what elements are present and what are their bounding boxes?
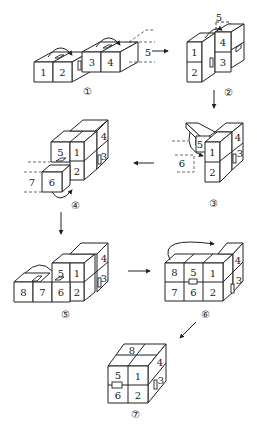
face-label-1: 1	[191, 47, 197, 58]
face-label-2: 2	[209, 167, 215, 178]
face-label-6: 6	[179, 158, 185, 169]
face-label-7: 7	[39, 287, 45, 298]
step-5-figure: 4 5 1 3 8 7 6 2 ⑤	[14, 243, 108, 320]
arrow-down-left-icon	[180, 322, 196, 338]
face-label-2: 2	[74, 166, 80, 177]
face-label-6: 6	[190, 287, 196, 298]
face-label-2: 2	[191, 67, 197, 78]
face-label-2: 2	[59, 67, 65, 78]
face-label-4: 4	[101, 131, 107, 142]
face-label-1: 1	[135, 371, 141, 382]
step-3-figure: 5 4 1 3 6 2 ③	[172, 123, 243, 209]
step-marker-4: ④	[71, 200, 80, 211]
step-7-figure: 8 4 5 1 3 6 2 ⑦	[108, 344, 166, 420]
face-label-8: 8	[129, 345, 135, 356]
step-marker-3: ③	[209, 198, 218, 209]
step-2-figure: 5 4 1 3 2	[187, 12, 244, 83]
face-label-8: 8	[171, 267, 177, 278]
face-label-7: 7	[171, 287, 177, 298]
step-marker-7: ⑦	[131, 409, 140, 420]
face-label-5: 5	[115, 370, 121, 381]
face-label-1: 1	[40, 67, 46, 78]
face-label-1: 1	[74, 268, 80, 279]
face-label-4: 4	[101, 253, 107, 264]
face-label-3: 3	[158, 375, 164, 386]
face-label-5: 5	[58, 268, 64, 279]
face-label-3: 3	[237, 148, 243, 159]
face-label-1: 1	[74, 147, 80, 158]
face-label-5: 5	[145, 47, 151, 58]
face-label-3: 3	[89, 57, 95, 68]
face-label-4: 4	[157, 357, 163, 368]
step-marker-5: ⑤	[61, 309, 70, 320]
face-label-6: 6	[49, 177, 55, 188]
face-label-1: 1	[209, 147, 215, 158]
face-label-8: 8	[20, 287, 26, 298]
step-marker-6: ⑥	[201, 309, 210, 320]
face-label-6: 6	[58, 287, 64, 298]
face-label-5: 5	[190, 267, 196, 278]
face-label-7: 7	[29, 177, 35, 188]
cube-folding-diagram: 1 2 3 4 5 ① 5 4 1 3 2 ②	[0, 0, 257, 436]
step-marker-2: ②	[224, 87, 233, 98]
face-label-4: 4	[220, 37, 226, 48]
face-label-2: 2	[135, 390, 141, 401]
face-label-4: 4	[235, 132, 241, 143]
step-marker-1: ①	[83, 86, 92, 97]
face-label-3: 3	[101, 151, 107, 162]
face-label-4: 4	[107, 57, 113, 68]
face-label-1: 1	[210, 268, 216, 279]
step-1-figure: 1 2 3 4 5 ①	[34, 30, 155, 97]
face-label-2: 2	[210, 287, 216, 298]
step-6-figure: 8 5 1 4 3 7 6 2 ⑥	[165, 242, 243, 320]
step-4-figure: 4 5 1 3 7 6 2 ④	[24, 120, 108, 211]
face-label-3: 3	[220, 57, 226, 68]
face-label-3: 3	[101, 273, 107, 284]
face-label-4: 4	[235, 255, 241, 266]
face-label-5: 5	[216, 12, 222, 23]
face-label-2: 2	[74, 287, 80, 298]
face-label-5: 5	[197, 139, 203, 150]
face-label-6: 6	[115, 390, 121, 401]
face-label-3: 3	[236, 275, 242, 286]
face-label-5: 5	[57, 147, 63, 158]
